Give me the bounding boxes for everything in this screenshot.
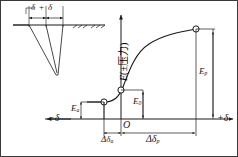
annotation-Ea-sub: a [77, 107, 80, 113]
y-axis-label-cjk: 压力 [118, 46, 129, 66]
origin-label: O [123, 120, 130, 130]
annotation-Ea: Ea [71, 104, 79, 114]
y-axis-label: E(±压力) [115, 43, 130, 81]
annotation-E0-sub: 0 [139, 100, 142, 106]
annotation-E0: E0 [133, 97, 141, 107]
wedge-right-edge [58, 25, 63, 75]
annotation-Ep-sub: p [205, 70, 208, 76]
x-axis-negative-label: −δ [48, 113, 59, 123]
annotation-delta-a-sub: a [110, 138, 113, 144]
inset-dim-label-left-delta: δ [31, 3, 35, 12]
y-axis-label-paren-close: ) [118, 43, 129, 46]
annotation-delta-p-sub: p [157, 137, 160, 144]
y-axis-label-paren-open: ( [118, 72, 129, 75]
y-axis-label-pm: ± [118, 66, 129, 72]
inset-dim-label-plus: + [39, 3, 44, 12]
annotation-delta-a: Δδa [101, 135, 113, 145]
annotation-delta-p: Δδp [146, 134, 160, 144]
annotation-Ep: Ep [199, 67, 207, 77]
inset-wedge-group [13, 6, 105, 75]
figure-panel: δ + δ E(±压力) O −δ +δ Ea E0 Ep Δδa Δδp [0, 0, 238, 157]
x-axis-positive-label: +δ [217, 113, 228, 123]
annotation-delta-p-base: Δδ [146, 133, 157, 144]
y-axis-label-E: E [118, 75, 129, 81]
inset-dim-label-right-delta: δ [48, 3, 52, 12]
wall-line [46, 25, 57, 73]
earth-pressure-curve-group [87, 29, 196, 102]
